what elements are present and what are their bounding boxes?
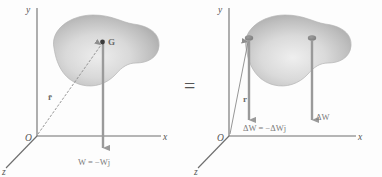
left-x-axis-label: x <box>162 132 168 142</box>
left-body-shape <box>53 15 159 86</box>
left-y-axis-label: y <box>25 5 31 15</box>
right-y-axis-label: y <box>217 5 223 15</box>
right-panel: y x z O r ΔW = −ΔWj ΔW <box>193 5 363 177</box>
left-origin-label: O <box>25 133 32 143</box>
right-position-vector <box>230 42 248 134</box>
left-force-label: W = −Wj <box>78 157 110 167</box>
right-force-label-left: ΔW = −ΔWj <box>243 123 286 133</box>
right-body-shape <box>245 15 351 86</box>
right-z-axis <box>198 136 229 168</box>
element-patch-left <box>245 35 253 41</box>
right-origin-label: O <box>217 133 224 143</box>
right-z-axis-label: z <box>193 167 198 177</box>
right-position-vector-label: r <box>243 94 247 104</box>
left-z-axis-label: z <box>1 167 6 177</box>
left-panel: y x z O G r̄ W = −Wj <box>1 5 168 177</box>
right-x-axis-label: x <box>357 132 363 142</box>
center-of-gravity-label: G <box>108 37 115 47</box>
left-position-vector-label: r̄ <box>48 92 52 102</box>
element-patch-right <box>308 35 316 41</box>
figure-canvas: y x z O G r̄ W = −Wj = <box>0 0 382 177</box>
center-of-gravity-point <box>100 40 105 45</box>
right-force-label-right: ΔW <box>316 112 330 122</box>
mechanics-figure: y x z O G r̄ W = −Wj = <box>0 0 382 177</box>
left-z-axis <box>6 136 37 168</box>
equals-sign: = <box>184 75 195 97</box>
